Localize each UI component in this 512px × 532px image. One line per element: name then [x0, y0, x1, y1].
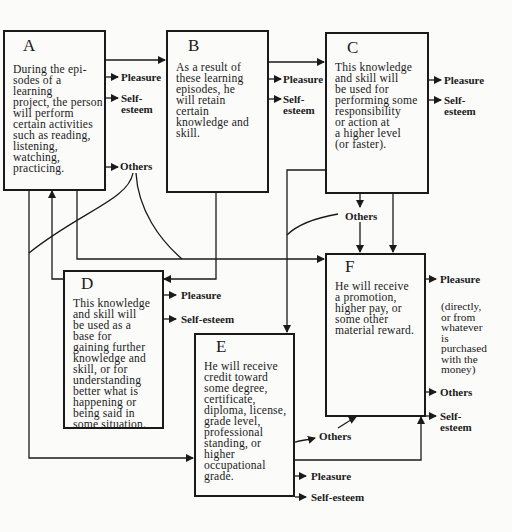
b-pleasure: Pleasure	[283, 74, 323, 85]
box-b-letter: B	[188, 36, 199, 56]
box-b-text: As a result of these learning episodes, …	[176, 62, 249, 139]
e-pleasure: Pleasure	[311, 471, 351, 482]
box-f: F He will receive a promotion, higher pa…	[325, 253, 426, 417]
f-self-esteem: Self- esteem	[440, 411, 472, 433]
e-self-esteem: Self-esteem	[311, 492, 364, 503]
e-others: Others	[319, 431, 351, 442]
a-self-esteem: Self- esteem	[121, 93, 153, 115]
box-e-letter: E	[216, 337, 226, 357]
box-c-text: This knowledge and skill will be used fo…	[335, 62, 418, 150]
b-self-esteem: Self- esteem	[283, 94, 315, 116]
box-f-letter: F	[345, 257, 354, 277]
box-a: A During the epi- sodes of a learning pr…	[3, 30, 106, 191]
f-pleasure-note: (directly, or from whatever is purchased…	[441, 301, 487, 375]
box-d-letter: D	[81, 274, 93, 294]
f-others: Others	[440, 387, 472, 398]
box-b: B As a result of these learning episodes…	[166, 30, 269, 193]
c-self-esteem: Self- esteem	[444, 95, 476, 117]
a-pleasure: Pleasure	[121, 72, 161, 83]
a-others: Others	[120, 161, 152, 172]
box-a-text: During the epi- sodes of a learning proj…	[13, 64, 104, 174]
box-c: C This knowledge and skill will be used …	[325, 32, 429, 194]
d-self-esteem: Self-esteem	[181, 314, 234, 325]
c-pleasure: Pleasure	[444, 75, 484, 86]
d-pleasure: Pleasure	[181, 290, 221, 301]
box-e: E He will receive credit toward some deg…	[194, 333, 295, 497]
box-c-letter: C	[347, 38, 358, 58]
c-others: Others	[345, 211, 377, 222]
box-d-text: This knowledge and skill will be used as…	[73, 298, 150, 430]
box-f-text: He will receive a promotion, higher pay,…	[335, 281, 414, 336]
box-e-text: He will receive credit toward some degre…	[204, 361, 286, 482]
box-a-letter: A	[23, 36, 35, 56]
f-pleasure: Pleasure	[440, 274, 480, 285]
box-d: D This knowledge and skill will be used …	[63, 270, 164, 429]
